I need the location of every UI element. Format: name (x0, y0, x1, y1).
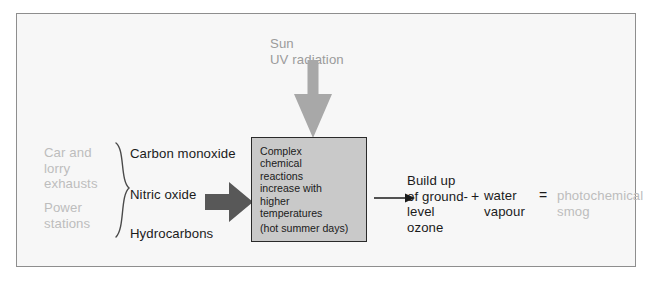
plus-sign: + (471, 189, 479, 205)
source-label-vehicles: Car and lorry exhausts (44, 145, 98, 192)
pollutant-label-nitric-oxide: Nitric oxide (130, 187, 196, 203)
pollutant-label-carbon-monoxide: Carbon monoxide (130, 146, 236, 162)
right-block-arrow-icon (205, 180, 253, 224)
outcome-ozone-label: Build up of ground- level ozone (407, 173, 468, 235)
outcome-water-vapour-label: water vapour (484, 188, 525, 219)
reaction-box-main-text: Complex chemical reactions increase with… (260, 145, 322, 219)
source-label-power-stations: Power stations (44, 200, 90, 231)
diagram-frame: Sun UV radiation Car and lorry exhausts … (16, 13, 636, 267)
outcome-photochemical-smog-label: photochemical smog (557, 188, 643, 219)
photochemical-smog-diagram: Sun UV radiation Car and lorry exhausts … (0, 0, 656, 281)
pollutant-label-hydrocarbons: Hydrocarbons (130, 226, 213, 242)
down-arrow-icon (285, 60, 341, 138)
reaction-box-sub-text: (hot summer days) (260, 222, 348, 234)
reaction-box: Complex chemical reactions increase with… (251, 137, 367, 242)
equals-sign: = (539, 188, 547, 204)
